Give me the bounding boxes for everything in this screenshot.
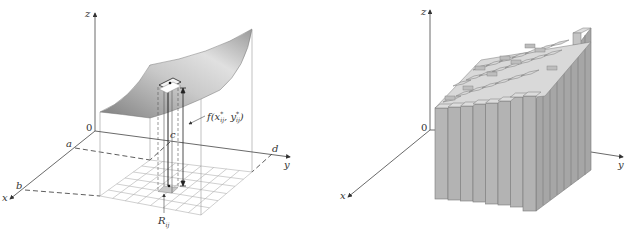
- subrectangle-label: Rij: [157, 215, 169, 229]
- z-axis-label: z: [84, 8, 91, 19]
- z-axis-label: z: [420, 6, 427, 17]
- box-corner-front: [573, 33, 581, 45]
- boxes-diagram-svg: z 0 x y: [315, 0, 630, 236]
- y-axis-label: y: [283, 159, 290, 170]
- bar: [461, 106, 474, 201]
- origin-label: 0: [86, 122, 92, 133]
- bar: [486, 103, 499, 204]
- bar: [473, 104, 486, 202]
- riemann-boxes-figure: z 0 x y: [315, 0, 630, 236]
- bound-b-label: b: [16, 180, 22, 191]
- boundary-dashed-lines: [25, 142, 272, 196]
- bound-c-label: c: [170, 129, 176, 140]
- y-axis-label: y: [617, 159, 624, 170]
- x-axis-label: x: [340, 190, 346, 201]
- x-axis: [10, 131, 95, 199]
- x-axis-label: x: [2, 192, 8, 203]
- bar: [523, 96, 536, 211]
- bar: [448, 107, 461, 200]
- bar: [435, 108, 448, 199]
- surface-f-xy: [100, 29, 252, 118]
- height-label-leader: [189, 116, 205, 124]
- y-axis: [591, 152, 623, 157]
- surface-diagram-svg: z 0 y x a b c d f(x*ij, y*ij) Rij: [0, 0, 315, 236]
- bar: [511, 97, 524, 207]
- x-axis: [348, 130, 430, 197]
- subrectangle-rij: [158, 186, 178, 193]
- height-formula-label: f(x*ij, y*ij): [206, 110, 244, 124]
- bound-d-label: d: [272, 143, 278, 154]
- surface-over-rectangle-figure: z 0 y x a b c d f(x*ij, y*ij) Rij: [0, 0, 315, 236]
- origin-label: 0: [421, 122, 427, 133]
- boxes-front-face: [435, 96, 536, 211]
- sample-point-surface: [169, 82, 172, 85]
- sample-point-base: [168, 185, 171, 188]
- bound-a-label: a: [66, 138, 72, 149]
- y-axis: [95, 131, 290, 157]
- bar: [498, 101, 511, 205]
